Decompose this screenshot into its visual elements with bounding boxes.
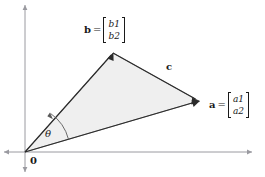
vector-a-entry-2: a2 <box>233 105 244 117</box>
y-axis-arrow-up <box>23 5 28 10</box>
vector-diagram-figure: b = b1 b2 a = a1 a2 <box>0 0 265 177</box>
x-axis-arrow-left <box>4 150 9 155</box>
bracket-right-b <box>122 17 125 43</box>
vector-a-name: a <box>209 100 215 110</box>
vector-a-column-vector: a1 a2 <box>228 92 249 118</box>
vector-c-label: c <box>166 62 172 72</box>
vector-a-entries: a1 a2 <box>231 92 246 118</box>
vector-a-entry-1: a1 <box>233 93 244 105</box>
bracket-right-a <box>246 92 249 118</box>
vector-b-label: b = b1 b2 <box>84 17 125 43</box>
x-axis-arrow-right <box>247 150 252 155</box>
vector-a-label: a = a1 a2 <box>209 92 249 118</box>
shaded-triangle <box>25 53 199 152</box>
vector-b-entry-1: b1 <box>108 18 120 30</box>
vector-b-entries: b1 b2 <box>106 17 122 43</box>
vector-b-column-vector: b1 b2 <box>103 17 125 43</box>
y-axis-arrow-down <box>23 167 28 172</box>
vector-b-equals: = <box>93 25 101 35</box>
theta-label: θ <box>45 129 51 139</box>
diagram-canvas <box>0 0 265 177</box>
vector-b-entry-2: b2 <box>108 30 120 42</box>
origin-label: 0 <box>30 156 37 166</box>
vector-b-name: b <box>84 25 91 35</box>
vector-a-equals: = <box>217 100 225 110</box>
